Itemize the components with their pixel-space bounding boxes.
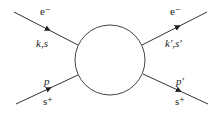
label-in-positron-momentum: p bbox=[44, 76, 50, 87]
label-in-positron-particle: s⁺ bbox=[43, 96, 53, 107]
label-in-electron-momentum: k,s bbox=[36, 38, 48, 49]
label-out-positron-momentum: p′ bbox=[176, 76, 184, 87]
label-out-electron-momentum: k′,s′ bbox=[165, 38, 182, 49]
label-out-positron-particle: s⁺ bbox=[175, 96, 185, 107]
label-in-electron-particle: e⁻ bbox=[40, 6, 51, 17]
vertex-blob bbox=[75, 25, 145, 95]
scattering-diagram bbox=[0, 0, 219, 119]
label-out-electron-particle: e⁻ bbox=[170, 6, 181, 17]
